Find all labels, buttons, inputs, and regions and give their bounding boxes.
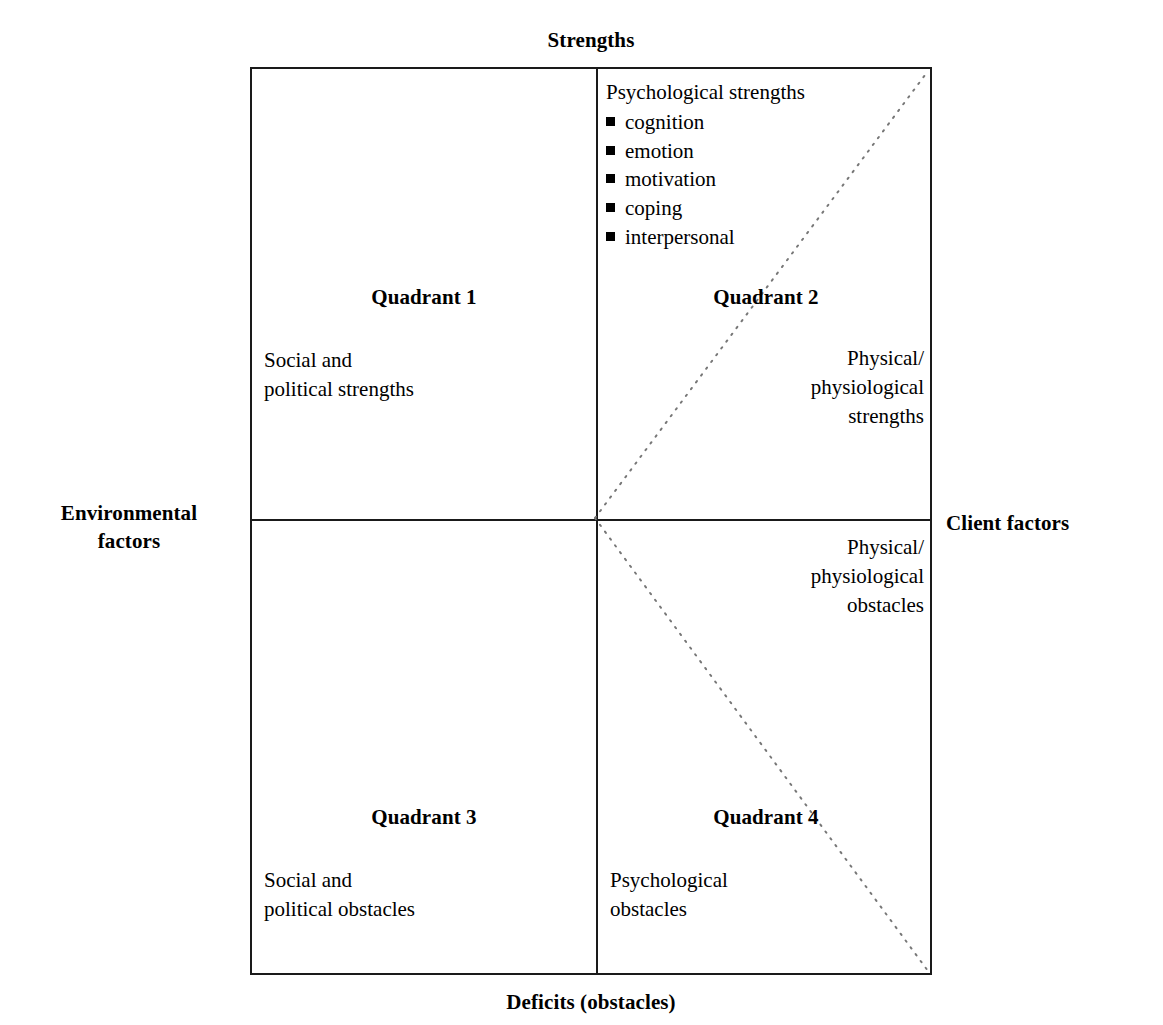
psychological-strengths-list: Psychological strengths cognition emotio…	[606, 78, 805, 252]
axis-label-top: Strengths	[250, 27, 932, 55]
list-item-label: emotion	[625, 137, 694, 166]
quadrant-4-body: Psychological obstacles	[610, 866, 728, 924]
square-bullet-icon	[606, 232, 615, 241]
quadrant-4: Physical/ physiological obstacles Quadra…	[598, 521, 934, 977]
list-item: motivation	[606, 165, 805, 194]
list-item: coping	[606, 194, 805, 223]
quadrant-3-body: Social and political obstacles	[264, 866, 415, 924]
quadrant-2-body: Physical/ physiological strengths	[811, 344, 924, 431]
list-item-label: coping	[625, 194, 682, 223]
quadrant-matrix: Quadrant 1 Social and political strength…	[250, 67, 932, 975]
quadrant-3: Quadrant 3 Social and political obstacle…	[252, 521, 596, 977]
list-item-label: interpersonal	[625, 223, 735, 252]
square-bullet-icon	[606, 146, 615, 155]
square-bullet-icon	[606, 174, 615, 183]
square-bullet-icon	[606, 203, 615, 212]
list-item: emotion	[606, 137, 805, 166]
axis-label-bottom: Deficits (obstacles)	[250, 989, 932, 1017]
strengths-bullet-list: cognition emotion motivation coping inte…	[606, 108, 805, 252]
quadrant-2: Psychological strengths cognition emotio…	[598, 69, 934, 519]
psychological-strengths-heading: Psychological strengths	[606, 78, 805, 107]
quadrant-4-title: Quadrant 4	[598, 805, 934, 830]
quadrant-2-title: Quadrant 2	[598, 285, 934, 310]
quadrant-1-title: Quadrant 1	[252, 285, 596, 310]
quadrant-1-body: Social and political strengths	[264, 346, 414, 404]
axis-label-right: Client factors	[946, 510, 1156, 538]
list-item-label: motivation	[625, 165, 716, 194]
quadrant-3-title: Quadrant 3	[252, 805, 596, 830]
list-item: interpersonal	[606, 223, 805, 252]
quadrant-4-note: Physical/ physiological obstacles	[811, 533, 924, 620]
list-item: cognition	[606, 108, 805, 137]
list-item-label: cognition	[625, 108, 704, 137]
axis-label-left: Environmental factors	[18, 500, 240, 555]
quadrant-1: Quadrant 1 Social and political strength…	[252, 69, 596, 519]
square-bullet-icon	[606, 117, 615, 126]
